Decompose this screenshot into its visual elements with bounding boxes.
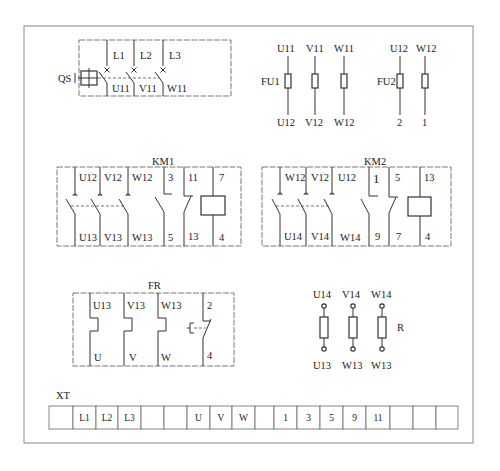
km2-top-label: U12 (338, 172, 356, 183)
terminal-cell (49, 406, 73, 429)
resistor-icon (378, 317, 386, 338)
qs-bottom-label: U11 (112, 83, 130, 94)
km2-top-label: V12 (311, 172, 329, 183)
km2-top-label: W12 (285, 172, 305, 183)
qs-switch: QS L1 L2 L3 U11 V11 W11 (58, 40, 231, 96)
fr-bottom-label: U (94, 352, 102, 363)
fu2-bottom-label: 1 (422, 117, 427, 128)
r-top-label: V14 (342, 289, 361, 300)
terminal-cell-label: L2 (102, 413, 113, 423)
km1-bottom-label: W13 (132, 232, 152, 243)
qs-top-label: L1 (113, 50, 125, 61)
km2-contactor: KM2 W12 V12 U12 1 5 13 (262, 156, 451, 246)
qs-bottom-label: W11 (167, 83, 187, 94)
fu2-bottom-label: 2 (397, 117, 402, 128)
fr-top-label: 2 (207, 300, 212, 311)
r-resistors: U14 V14 W14 R U13 W13 W13 (313, 289, 404, 371)
r-bottom-label: W13 (342, 360, 362, 371)
km1-bottom-label: U13 (79, 232, 97, 243)
km1-top-label: 3 (168, 172, 173, 183)
terminal-cell-label: 3 (306, 413, 311, 423)
km1-bottom-label: 5 (168, 232, 173, 243)
fuse-icon (422, 74, 428, 88)
thermal-actuator-icon (187, 323, 194, 333)
terminal-cell-label: 9 (352, 413, 357, 423)
r-bottom-label: W13 (371, 360, 391, 371)
fu1-top-label: W11 (334, 43, 354, 54)
fr-top-label: U13 (93, 300, 111, 311)
coil-icon (408, 197, 431, 216)
km1-bottom-label: 13 (188, 231, 199, 242)
terminal-cell-label: U (195, 413, 202, 423)
cross-mark-icon (105, 68, 166, 73)
fu1-label: FU1 (261, 76, 280, 87)
km1-top-label: V12 (104, 172, 122, 183)
terminal-cell (255, 406, 274, 429)
fu1-fuses: U11 V11 W11 FU1 U12 V12 W12 (261, 43, 354, 128)
km1-top-label: 11 (188, 172, 198, 183)
fuse-icon (285, 74, 291, 88)
fr-label: FR (148, 280, 161, 291)
fu1-bottom-label: U12 (277, 117, 295, 128)
fu1-top-label: V11 (306, 43, 324, 54)
km1-top-label: 7 (219, 172, 224, 183)
resistor-icon (349, 317, 357, 338)
fuse-icon (341, 74, 347, 88)
fr-bottom-label: W (161, 352, 171, 363)
fu1-top-label: U11 (277, 43, 295, 54)
km2-top-label: 5 (395, 172, 400, 183)
r-label: R (397, 322, 404, 333)
terminal-cell-label: 1 (283, 413, 288, 423)
terminal-cell (141, 406, 164, 429)
km2-bottom-label: W14 (340, 232, 361, 243)
coil-icon (201, 196, 225, 215)
terminal-cell (436, 406, 458, 429)
fr-bottom-label: 4 (207, 350, 213, 361)
xt-label: XT (56, 390, 71, 401)
km1-bottom-label: V13 (104, 232, 122, 243)
terminal-cell-label: L1 (79, 413, 90, 423)
terminal-cell-label: W (239, 413, 248, 423)
fu1-bottom-label: W12 (334, 117, 354, 128)
fu2-fuses: U12 W12 FU2 2 1 (377, 43, 436, 128)
qs-top-label: L2 (140, 50, 152, 61)
fu2-top-label: U12 (390, 43, 408, 54)
km2-bottom-label: U14 (284, 231, 303, 242)
terminal-cell-label: 11 (373, 413, 382, 423)
xt-terminal-block: XT L1L2L3UVW135911 (49, 390, 458, 429)
km2-bottom-label: 9 (375, 231, 380, 242)
fu1-bottom-label: V12 (305, 117, 323, 128)
resistor-icon (320, 317, 328, 338)
fr-thermal-relay: FR U13 V13 W13 2 U V W 4 (73, 280, 234, 366)
km2-top-label: 13 (424, 172, 435, 183)
fr-top-label: W13 (161, 300, 181, 311)
r-top-label: W14 (371, 289, 392, 300)
km2-bottom-label: 7 (396, 231, 401, 242)
r-top-label: U14 (313, 289, 332, 300)
km2-label: KM2 (364, 156, 386, 167)
terminal-cell-label: 5 (329, 413, 334, 423)
km1-top-label: W12 (132, 172, 152, 183)
km1-label: KM1 (152, 156, 174, 167)
fuse-icon (312, 74, 318, 88)
km2-bottom-label: V14 (311, 231, 330, 242)
r-bottom-label: U13 (313, 360, 331, 371)
terminal-cell (390, 406, 413, 429)
wiring-diagram: QS L1 L2 L3 U11 V11 W11 U11 V11 W11 FU1 … (0, 0, 500, 471)
qs-label: QS (58, 73, 72, 84)
fu2-top-label: W12 (416, 43, 436, 54)
qs-bottom-label: V11 (139, 83, 157, 94)
qs-top-label: L3 (169, 50, 181, 61)
fr-top-label: V13 (127, 300, 145, 311)
fr-bottom-label: V (129, 352, 137, 363)
km1-bottom-label: 4 (219, 232, 225, 243)
km2-top-label: 1 (373, 171, 380, 186)
terminal-cell-label: L3 (124, 413, 135, 423)
km1-top-label: U12 (79, 172, 97, 183)
terminal-cell (413, 406, 436, 429)
terminal-cell-label: V (218, 413, 225, 423)
km1-contactor: KM1 U12 V12 W12 3 11 7 (57, 156, 241, 246)
km2-bottom-label: 4 (425, 231, 431, 242)
terminal-cell (164, 406, 187, 429)
fuse-icon (397, 74, 403, 88)
